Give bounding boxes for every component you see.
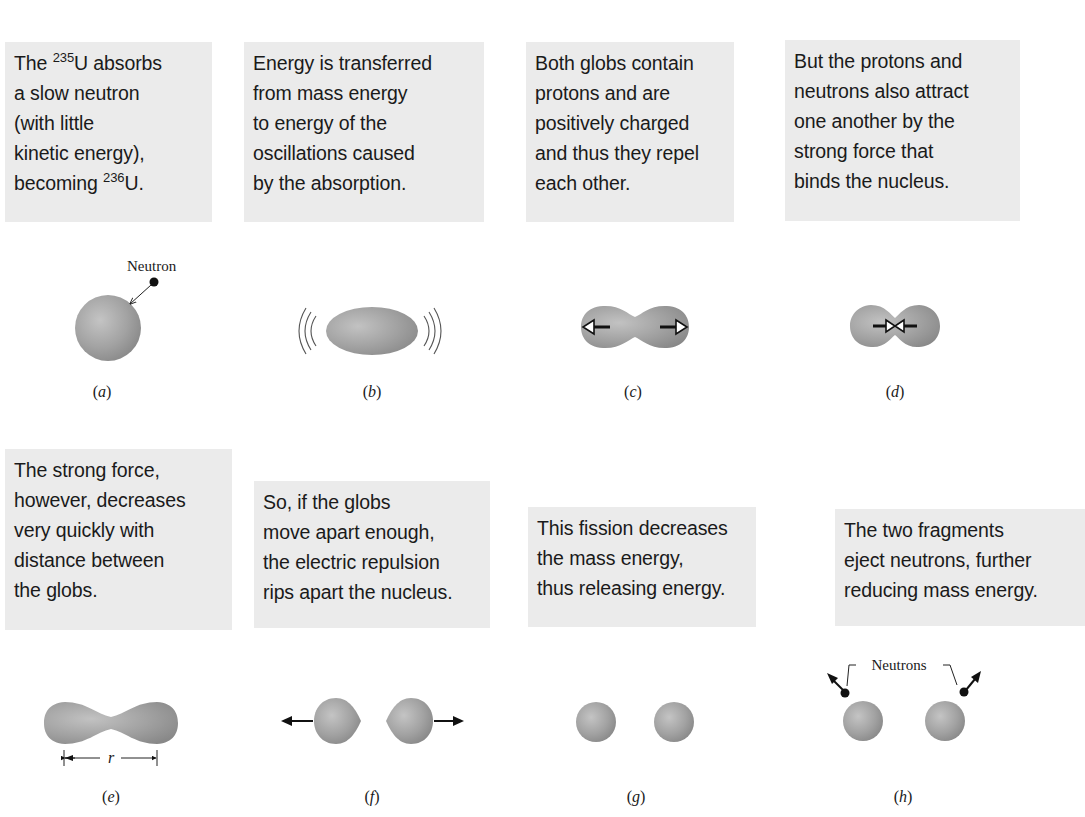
oscillating-nucleus	[326, 307, 418, 355]
fragment-left	[843, 701, 883, 741]
panel-e-drawing: r (e)	[44, 702, 178, 806]
panel-label-a: (a)	[93, 383, 112, 401]
separation-arrow-right-icon	[434, 716, 464, 726]
neutron-velocity-arrow-right-icon	[966, 671, 981, 690]
separation-arrow-left-icon	[281, 716, 313, 726]
neutron-velocity-arrow-left-icon	[827, 673, 844, 691]
elongated-nucleus	[44, 702, 178, 744]
neutron-dot	[150, 278, 159, 287]
fragment-left	[576, 702, 616, 742]
panel-b-drawing: (b)	[299, 307, 441, 401]
panel-label-f: (f)	[364, 788, 379, 806]
panel-label-h: (h)	[894, 788, 913, 806]
neutron-callout: Neutron	[127, 258, 177, 274]
panel-a-drawing: Neutron (a)	[75, 258, 177, 401]
panel-d-drawing: (d)	[850, 305, 940, 401]
panel-label-g: (g)	[627, 788, 646, 806]
panel-g-drawing: (g)	[576, 702, 694, 806]
vibration-lines-right-icon	[424, 308, 441, 354]
fragment-left	[314, 698, 361, 744]
fragment-right	[386, 698, 433, 744]
panel-c-drawing: (c)	[581, 306, 689, 401]
distance-r-label: r	[108, 749, 115, 766]
panel-h-drawing: Neutrons (h)	[827, 657, 981, 806]
vibration-lines-left-icon	[299, 308, 316, 354]
uranium-nucleus	[75, 295, 141, 361]
fragment-right	[925, 701, 965, 741]
panel-label-d: (d)	[886, 383, 905, 401]
fission-illustrations: Neutron (a) (b) (c)	[0, 0, 1085, 817]
neutron-path-arrow	[130, 285, 151, 304]
panel-label-c: (c)	[624, 383, 642, 401]
neutrons-callout: Neutrons	[872, 657, 927, 673]
panel-label-b: (b)	[363, 383, 382, 401]
panel-f-drawing: (f)	[281, 698, 464, 806]
panel-label-e: (e)	[102, 788, 120, 806]
fragment-right	[654, 702, 694, 742]
